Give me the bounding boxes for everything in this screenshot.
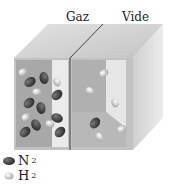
legend-n2-label: N — [18, 154, 29, 167]
vacuum-label: Vide — [122, 11, 149, 23]
legend-n2: N2 — [18, 154, 36, 167]
legend-h2-sub: 2 — [31, 172, 36, 180]
gas-label: Gaz — [66, 11, 89, 23]
legend-h2: H2 — [18, 169, 36, 182]
legend-n2-sub: 2 — [31, 157, 36, 165]
legend-h2-label: H — [18, 169, 29, 182]
n2-molecule-icon — [3, 157, 15, 165]
h2-molecule-icon — [5, 173, 14, 180]
